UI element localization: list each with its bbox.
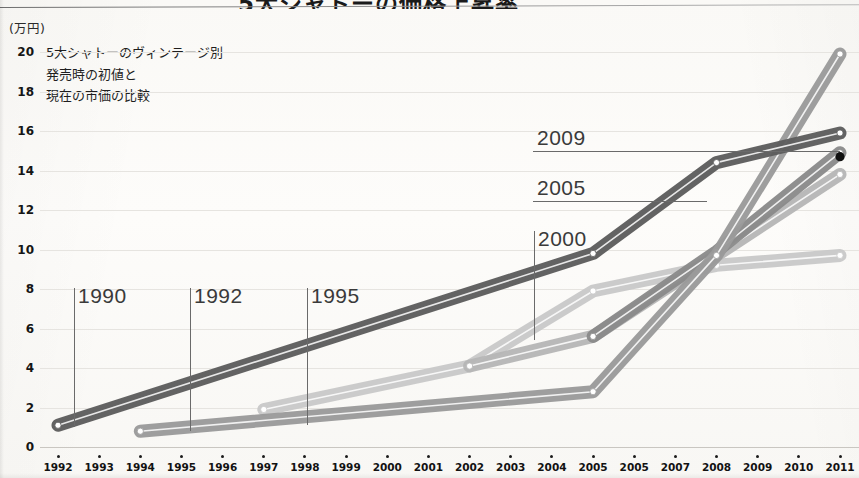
annotation-label-1990: 1990 bbox=[78, 284, 127, 308]
annotation-leader-1992 bbox=[190, 288, 191, 431]
annotation-leader-1995 bbox=[307, 288, 308, 425]
annotation-label-2000: 2000 bbox=[538, 227, 587, 251]
page-bottom-edge bbox=[0, 473, 859, 478]
annotation-leader-2005 bbox=[533, 201, 707, 202]
series-1990 bbox=[55, 130, 843, 429]
chart-figure: 5大シャトーの価格上昇率 (万円) 5大シャトーのヴィンテージ別 発売時の初値と… bbox=[0, 0, 859, 478]
page-left-edge bbox=[0, 0, 4, 478]
annotation-label-1992: 1992 bbox=[194, 284, 243, 308]
annotation-leader-2000 bbox=[534, 231, 535, 340]
annotation-label-2005: 2005 bbox=[537, 176, 586, 200]
end-marker-dot bbox=[835, 152, 844, 161]
series-plot-area bbox=[0, 0, 859, 478]
annotation-label-1995: 1995 bbox=[311, 284, 360, 308]
annotation-leader-2009 bbox=[533, 151, 840, 152]
annotation-leader-1990 bbox=[74, 288, 75, 427]
annotation-label-2009: 2009 bbox=[537, 126, 586, 150]
